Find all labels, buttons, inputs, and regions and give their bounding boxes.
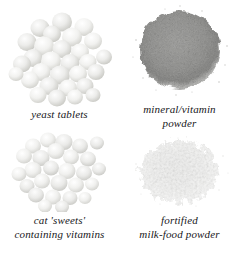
panel-fortified-milk-food-powder: fortified milk-food powder [120, 128, 239, 255]
caption-mineral-vitamin-powder: mineral/vitamin powder [120, 102, 239, 130]
panel-cat-sweets: cat 'sweets' containing vitamins [0, 128, 119, 255]
cat-sweets-image [0, 128, 119, 212]
caption-line: mineral/vitamin [120, 102, 239, 116]
caption-fortified-milk-food-powder: fortified milk-food powder [120, 213, 239, 241]
yeast-tablets-image [0, 0, 119, 107]
caption-line: containing vitamins [0, 227, 119, 241]
caption-line: milk-food powder [120, 227, 239, 241]
caption-line: fortified [120, 213, 239, 227]
fortified-milk-food-powder-image [120, 128, 239, 212]
supplement-types-figure: yeast tablets [0, 0, 239, 255]
caption-line: cat 'sweets' [0, 213, 119, 227]
caption-yeast-tablets: yeast tablets [0, 107, 119, 121]
panel-mineral-vitamin-powder: mineral/vitamin powder [120, 0, 239, 127]
panel-yeast-tablets: yeast tablets [0, 0, 119, 127]
caption-cat-sweets: cat 'sweets' containing vitamins [0, 213, 119, 241]
mineral-vitamin-powder-image [120, 0, 239, 102]
caption-line: yeast tablets [0, 107, 119, 121]
